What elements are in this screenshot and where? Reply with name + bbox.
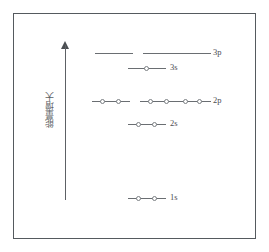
level-label-1s: 1s — [170, 191, 178, 203]
electron-2p-2-1 — [148, 99, 153, 104]
orbital-1s-1 — [128, 193, 166, 205]
orbital-line — [181, 53, 211, 54]
level-label-3s: 3s — [170, 61, 178, 73]
orbital-line — [140, 101, 178, 102]
orbital-3p-2 — [143, 48, 181, 60]
orbital-line — [175, 101, 211, 102]
electron-1s-1-2 — [152, 196, 157, 201]
electron-2p-3-2 — [197, 99, 202, 104]
orbital-2p-2 — [140, 96, 178, 108]
electron-2s-1-2 — [152, 122, 157, 127]
orbital-line — [128, 198, 166, 199]
level-label-2p: 2p — [213, 94, 222, 106]
electron-2p-3-1 — [183, 99, 188, 104]
electron-1s-1-1 — [136, 196, 141, 201]
orbital-line — [95, 53, 133, 54]
orbital-3p-3 — [181, 48, 211, 60]
electron-2s-1-1 — [136, 122, 141, 127]
orbital-2s-1 — [128, 119, 166, 131]
electron-2p-2-2 — [164, 99, 169, 104]
orbital-3p-1 — [95, 48, 133, 60]
orbital-3s-1 — [128, 63, 166, 75]
energy-level-3s: 3s — [0, 63, 269, 75]
electron-2p-1-2 — [116, 99, 121, 104]
energy-level-1s: 1s — [0, 193, 269, 205]
energy-level-2p: 2p — [0, 96, 269, 108]
orbital-line — [128, 124, 166, 125]
orbital-line — [143, 53, 181, 54]
orbital-2p-3 — [175, 96, 211, 108]
electron-2p-1-1 — [100, 99, 105, 104]
orbital-2p-1 — [92, 96, 130, 108]
energy-level-3p: 3p — [0, 48, 269, 60]
level-label-3p: 3p — [213, 46, 222, 58]
electron-3s-1-1 — [144, 66, 149, 71]
energy-level-figure: 能量增大 3p3s2p2s1s — [0, 0, 269, 252]
orbital-line — [92, 101, 130, 102]
level-label-2s: 2s — [170, 117, 178, 129]
energy-level-2s: 2s — [0, 119, 269, 131]
